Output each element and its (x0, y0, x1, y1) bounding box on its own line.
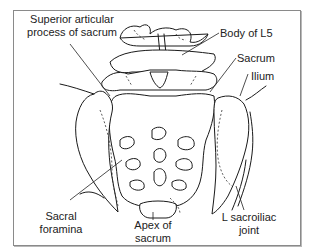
label-apex-line2: sacrum (127, 232, 179, 245)
label-apex-line1: Apex of (127, 219, 179, 232)
label-superior-articular-process: Superior articular process of sacrum (22, 13, 122, 39)
label-sacrum: Sacrum (237, 52, 275, 65)
left-ilium (60, 84, 118, 212)
label-apex-of-sacrum: Apex of sacrum (127, 219, 179, 245)
label-sacral-foramina: Sacral foramina (37, 210, 85, 236)
label-superior-articular-line2: process of sacrum (22, 26, 122, 39)
label-sacral-foramina-line2: foramina (37, 223, 85, 236)
label-ilium: Ilium (251, 70, 274, 83)
leader-ilium (240, 74, 248, 96)
label-body-of-l5: Body of L5 (220, 27, 273, 40)
sacrum-bone (109, 94, 214, 218)
label-sacral-foramina-line1: Sacral (37, 210, 85, 223)
label-l-sacroiliac-joint: L sacroiliac joint (217, 211, 281, 237)
label-sacroiliac-line2: joint (217, 224, 281, 237)
label-sacroiliac-line1: L sacroiliac (217, 211, 281, 224)
label-superior-articular-line1: Superior articular (22, 13, 122, 26)
